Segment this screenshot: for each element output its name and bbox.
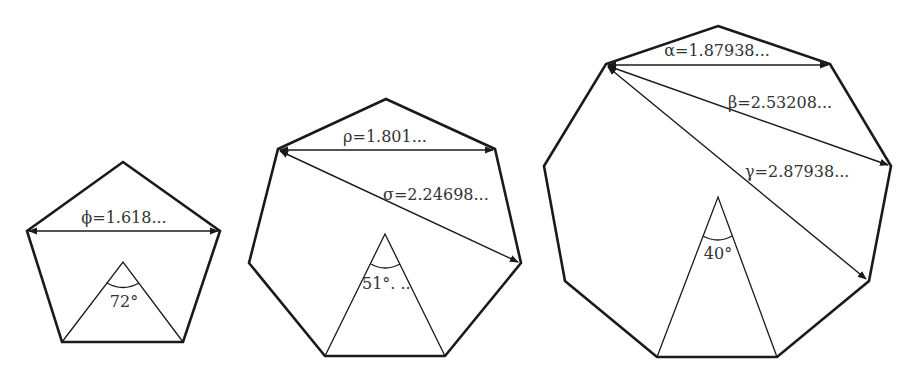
nonagon-diagonal-alpha-label: α=1.87938... bbox=[664, 41, 770, 60]
nonagon-central-triangle bbox=[657, 197, 777, 357]
nonagon-angle-arc bbox=[703, 236, 732, 240]
nonagon-outline bbox=[544, 26, 891, 357]
heptagon-diagonal-sigma-label: σ=2.24698... bbox=[383, 185, 489, 204]
nonagon-diagonal-beta bbox=[608, 66, 888, 165]
nonagon-diagonal-beta-label: β=2.53208... bbox=[728, 93, 832, 112]
pentagon-angle-label: 72° bbox=[110, 292, 138, 311]
heptagon: ρ=1.801... σ=2.24698... 51°. .. bbox=[249, 99, 521, 356]
pentagon: ϕ=1.618... 72° bbox=[27, 162, 220, 342]
heptagon-diagonal-sigma bbox=[280, 151, 518, 262]
nonagon-diagonal-gamma-label: γ=2.87938... bbox=[745, 162, 849, 181]
pentagon-angle-arc bbox=[107, 283, 139, 288]
nonagon-angle-label: 40° bbox=[704, 244, 732, 263]
heptagon-diagonal-rho-label: ρ=1.801... bbox=[343, 127, 427, 146]
heptagon-angle-arc bbox=[371, 264, 400, 268]
pentagon-diagonal-phi-label: ϕ=1.618... bbox=[81, 208, 166, 227]
pentagon-outline bbox=[27, 162, 220, 342]
heptagon-angle-label: 51°. .. bbox=[362, 274, 411, 293]
nonagon: α=1.87938... β=2.53208... γ=2.87938... 4… bbox=[544, 26, 891, 357]
polygon-diagonals-diagram: ϕ=1.618... 72° ρ=1.801... σ=2.24698... 5… bbox=[0, 0, 921, 377]
heptagon-central-triangle bbox=[325, 234, 445, 356]
